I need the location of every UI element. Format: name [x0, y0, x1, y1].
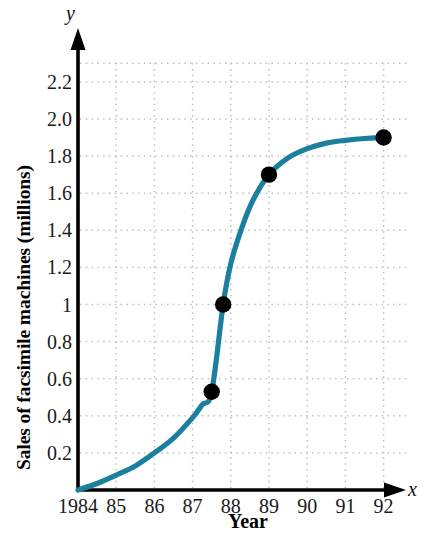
y-tick-label: 1 [62, 295, 72, 315]
y-tick-label: 0.6 [47, 369, 72, 389]
y-tick-label: 0.4 [47, 406, 72, 426]
y-tick-label: 1.4 [47, 220, 72, 240]
y-axis-arrowhead [71, 28, 86, 50]
x-tick-label: 92 [354, 496, 414, 516]
y-tick-label: 1.8 [47, 146, 72, 166]
y-tick-label: 2.0 [47, 109, 72, 129]
y-tick-label: 0.8 [47, 332, 72, 352]
data-point [261, 166, 277, 182]
data-point [215, 296, 231, 312]
y-tick-label: 1.6 [47, 183, 72, 203]
y-tick-label: 0.2 [47, 443, 72, 463]
vertical-gridlines [116, 63, 383, 488]
data-point [375, 129, 391, 145]
horizontal-gridlines [80, 63, 410, 453]
axes [71, 28, 407, 498]
chart-figure: y x Sales of facsimile machines (million… [0, 0, 426, 537]
data-point [204, 383, 220, 399]
y-tick-label: 1.2 [47, 257, 72, 277]
y-tick-label: 2.2 [47, 72, 72, 92]
